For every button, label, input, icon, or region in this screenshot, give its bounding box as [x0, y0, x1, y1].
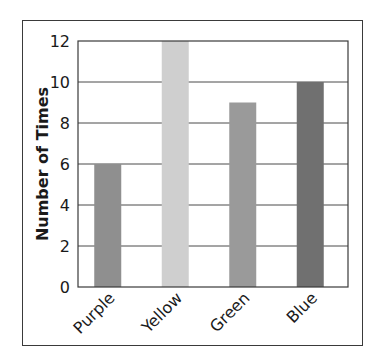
y-tick-label: 4	[60, 196, 70, 215]
y-axis-ticks: 024681012	[50, 32, 70, 297]
x-category-label: Yellow	[137, 288, 186, 337]
y-tick-label: 8	[60, 114, 70, 133]
y-tick-label: 12	[50, 32, 70, 51]
y-tick-label: 2	[60, 237, 70, 256]
bar-purple	[94, 164, 121, 287]
y-tick-label: 10	[50, 73, 70, 92]
x-category-label: Purple	[69, 288, 118, 337]
bar-yellow	[162, 41, 189, 287]
y-tick-label: 0	[60, 278, 70, 297]
x-category-label: Green	[206, 288, 254, 336]
y-axis-title: Number of Times	[33, 87, 52, 241]
x-axis-labels: PurpleYellowGreenBlue	[69, 288, 321, 337]
bar-blue	[297, 82, 324, 287]
x-category-label: Blue	[283, 288, 321, 326]
bar-green	[229, 103, 256, 288]
y-tick-label: 6	[60, 155, 70, 174]
bar-chart: 024681012 PurpleYellowGreenBlue Number o…	[0, 0, 383, 364]
